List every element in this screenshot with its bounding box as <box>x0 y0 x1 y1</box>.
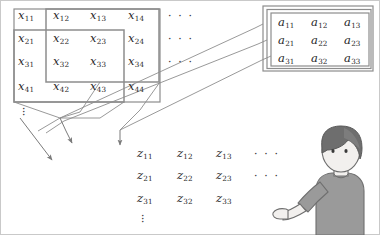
z-row-ellipsis-1: · · · <box>254 148 279 161</box>
z-cell-1-2: z12 <box>177 148 192 160</box>
x-row-ellipsis-1: · · · <box>168 10 193 23</box>
person-neck <box>334 164 348 176</box>
person-hand <box>273 209 288 219</box>
a-cell-3-2: a32 <box>311 53 327 65</box>
person-group <box>273 126 364 235</box>
person-forearm <box>283 204 306 220</box>
figure-canvas: x11 x12 x13 x14 x21 x22 x23 x24 x31 x32 … <box>0 0 380 235</box>
person-hair <box>322 126 362 159</box>
person-sleeve <box>298 182 328 212</box>
kernel-link-a <box>38 24 263 131</box>
kernel-link-b <box>46 40 267 133</box>
person-fringe <box>344 128 360 149</box>
a-cell-2-3: a23 <box>344 35 360 47</box>
arrow-to-z11 <box>60 118 72 143</box>
z-cell-2-3: z23 <box>216 170 231 182</box>
x-cell-2-3: x23 <box>90 33 106 45</box>
x-column-vdots: ··· <box>22 108 26 118</box>
x-cell-3-4: x34 <box>128 56 144 68</box>
z-cell-1-3: z13 <box>216 148 231 160</box>
x-cell-2-1: x21 <box>18 33 34 45</box>
x-cell-1-4: x14 <box>128 10 144 22</box>
x-cell-3-1: x31 <box>18 56 34 68</box>
z-row-ellipsis-2: · · · <box>254 170 279 183</box>
arrow-to-z21 <box>20 118 52 160</box>
x-cell-3-2: x32 <box>53 56 69 68</box>
x-cell-4-4: x44 <box>128 81 144 93</box>
z-cell-3-1: z31 <box>137 193 152 205</box>
x-cell-2-2: x22 <box>53 33 69 45</box>
x-cell-2-4: x24 <box>128 33 144 45</box>
a-cell-3-1: a31 <box>278 53 294 65</box>
person-collar <box>334 174 348 178</box>
z-column-vdots: ··· <box>141 215 145 225</box>
x-cell-1-3: x13 <box>90 10 106 22</box>
x-cell-4-1: x41 <box>18 81 34 93</box>
x-cell-4-3: x43 <box>90 81 106 93</box>
x-cell-4-2: x42 <box>53 81 69 93</box>
window-link-1 <box>14 102 60 118</box>
z-cell-2-2: z22 <box>177 170 192 182</box>
z-cell-1-1: z11 <box>137 148 152 160</box>
x-row-ellipsis-2: · · · <box>168 33 193 46</box>
a-cell-3-3: a33 <box>344 53 360 65</box>
a-cell-2-1: a21 <box>278 35 294 47</box>
z-cell-3-2: z32 <box>177 193 192 205</box>
person-eye-right <box>344 149 347 153</box>
x-cell-3-3: x33 <box>90 56 106 68</box>
x-row-ellipsis-3: · · · <box>168 56 193 69</box>
a-cell-1-3: a13 <box>344 17 360 29</box>
z-cell-3-3: z33 <box>216 193 231 205</box>
person-eye-left <box>331 149 334 153</box>
a-cell-2-2: a22 <box>311 35 327 47</box>
z-cell-2-1: z21 <box>137 170 152 182</box>
a-cell-1-1: a11 <box>278 17 294 29</box>
x-cell-1-2: x12 <box>53 10 69 22</box>
x-cell-1-1: x11 <box>18 10 34 22</box>
a-cell-1-2: a12 <box>311 17 327 29</box>
person-torso <box>316 173 364 235</box>
window-link-2 <box>60 102 124 118</box>
person-head <box>322 128 360 172</box>
